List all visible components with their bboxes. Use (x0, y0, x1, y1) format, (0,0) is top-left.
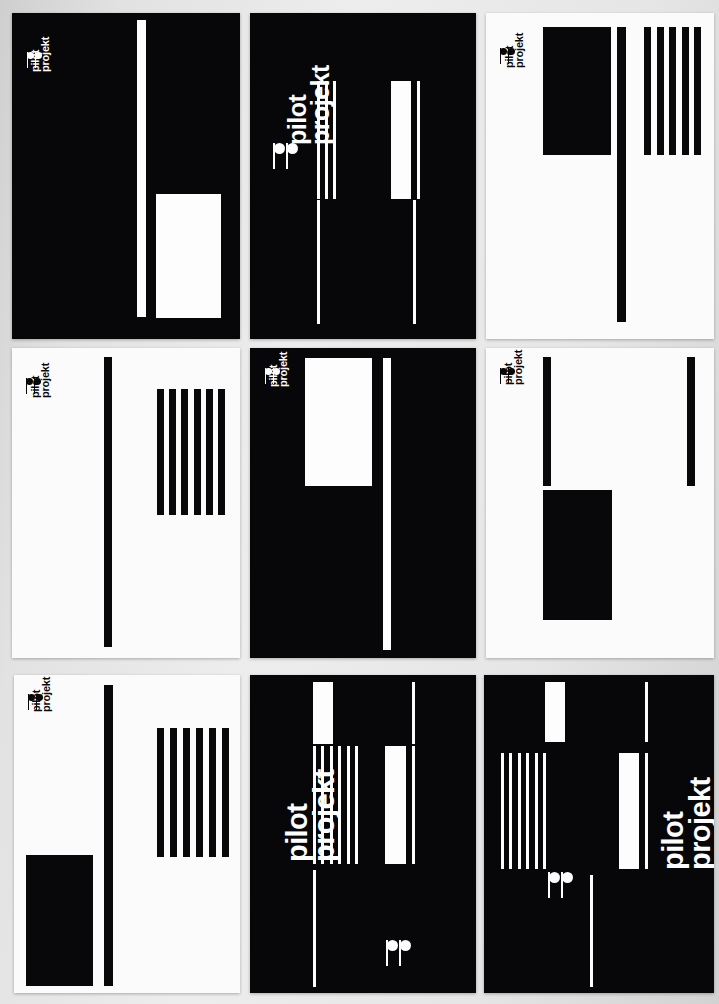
stripe-bar (218, 389, 225, 515)
tall-white-bar (137, 20, 146, 317)
stripe-bar (347, 746, 350, 864)
logo-note-2 (399, 940, 412, 966)
logo-note-1 (548, 872, 561, 898)
stripe-bar (181, 389, 188, 515)
poster-middle-right[interactable]: pilotprojekt (486, 348, 714, 658)
poster-top-center[interactable]: pilotprojekt (250, 13, 476, 339)
long-black-bar (617, 27, 626, 322)
stripe-bar (682, 27, 689, 155)
long-black-bar (104, 685, 113, 986)
poster-bottom-right[interactable]: pilotprojekt (484, 675, 714, 993)
wordmark: pilotprojekt (660, 777, 713, 870)
white-rectangle (156, 194, 221, 318)
logo-mark[interactable] (548, 872, 574, 902)
poster-top-right[interactable]: pilotprojekt (486, 13, 714, 339)
logo-note-disc (387, 940, 398, 951)
thin-white-bar-mid-right (645, 753, 648, 869)
long-white-bar (383, 358, 391, 650)
short-black-bar-right (687, 357, 695, 486)
logo-note-disc (400, 940, 411, 951)
stripe-group-6 (157, 728, 229, 857)
poster-grid: pilotprojektpilotprojektpilotprojektpilo… (0, 0, 719, 1004)
long-white-bar-left (317, 200, 320, 324)
wordmark: pilotprojekt (286, 65, 332, 145)
stripe-bar (535, 753, 538, 869)
white-rectangle-top (545, 682, 565, 742)
poster-top-left[interactable]: pilotprojekt (12, 13, 240, 339)
wordmark-line-projekt: projekt (40, 363, 50, 398)
wordmark: pilotprojekt (503, 350, 523, 385)
wordmark: pilotprojekt (268, 352, 288, 387)
white-rectangle-top (313, 682, 333, 744)
poster-middle-left[interactable]: pilotprojekt (12, 348, 240, 658)
stripe-bar (543, 753, 546, 869)
stripe-bar (644, 27, 651, 155)
thin-white-bar-right (417, 81, 420, 199)
white-rectangle (391, 81, 411, 199)
stripe-bar (526, 753, 529, 869)
thin-white-bar-upper-right (412, 682, 415, 744)
stripe-bar (209, 728, 216, 857)
wordmark: pilotprojekt (31, 677, 51, 712)
long-white-bar-left (313, 870, 316, 987)
stripe-bar (694, 27, 701, 155)
poster-middle-center[interactable]: pilotprojekt (250, 348, 476, 658)
wordmark-line-projekt: projekt (278, 352, 288, 387)
thin-white-bar-mid-right (412, 746, 415, 864)
logo-note-2 (561, 872, 574, 898)
stripe-group-5 (644, 27, 701, 155)
wordmark: pilotprojekt (30, 363, 50, 398)
logo-note-disc (549, 872, 560, 883)
logo-mark[interactable] (273, 143, 299, 173)
stripe-bar (657, 27, 664, 155)
black-rectangle (26, 855, 93, 986)
black-rectangle (543, 27, 611, 155)
logo-note-1 (386, 940, 399, 966)
poster-bottom-left[interactable]: pilotprojekt (14, 675, 240, 993)
white-rectangle-right (385, 746, 406, 864)
wordmark-line-projekt: projekt (513, 350, 523, 385)
wordmark-line-projekt: projekt (40, 37, 50, 72)
stripe-bar (509, 753, 512, 869)
logo-note-2 (286, 143, 299, 169)
wordmark-line-projekt: projekt (514, 33, 524, 68)
stripe-bar (669, 27, 676, 155)
stripe-bar (170, 728, 177, 857)
logo-note-disc (562, 872, 573, 883)
logo-mark[interactable] (386, 940, 412, 970)
stripe-bar (206, 389, 213, 515)
wordmark-line-projekt: projekt (687, 777, 714, 870)
thin-white-bar-upper-right (645, 682, 648, 742)
wordmark: pilotprojekt (284, 769, 337, 862)
wordmark-line-projekt: projekt (309, 65, 332, 145)
black-rectangle (543, 490, 612, 620)
stripe-bar (501, 753, 504, 869)
long-white-bar-center (590, 875, 593, 987)
stripe-bar (222, 728, 229, 857)
logo-note-1 (273, 143, 286, 169)
stripe-bar (518, 753, 521, 869)
stripe-bar (157, 728, 164, 857)
white-rectangle-right (619, 753, 639, 869)
stripe-bar (355, 746, 358, 864)
short-black-bar-left (543, 357, 551, 486)
long-white-bar-right (413, 200, 416, 324)
stripe-bar (183, 728, 190, 857)
wordmark-line-pilot: pilot (660, 777, 687, 870)
wordmark: pilotprojekt (30, 37, 50, 72)
long-black-bar (104, 357, 112, 647)
wordmark-line-projekt: projekt (41, 677, 51, 712)
white-rectangle (305, 358, 372, 486)
wordmark-line-pilot: pilot (284, 769, 311, 862)
wordmark: pilotprojekt (504, 33, 524, 68)
wordmark-line-projekt: projekt (311, 769, 338, 862)
stripe-bar (196, 728, 203, 857)
stripe-bar (157, 389, 164, 515)
stripe-group-6 (501, 753, 546, 869)
stripe-bar (194, 389, 201, 515)
stripe-bar (169, 389, 176, 515)
stripe-group-6 (157, 389, 225, 515)
poster-bottom-center[interactable]: pilotprojekt (250, 675, 476, 993)
